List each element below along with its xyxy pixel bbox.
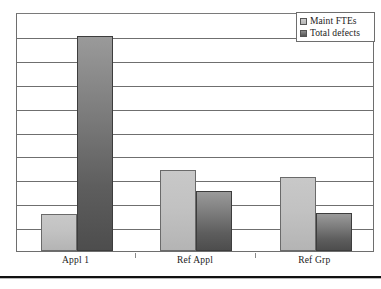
category-label: Ref Appl bbox=[135, 254, 254, 267]
bar[interactable] bbox=[196, 191, 232, 251]
category-tick bbox=[135, 253, 136, 258]
legend-item-maint-ftes[interactable]: Maint FTEs bbox=[300, 15, 371, 27]
legend-label-maint-ftes: Maint FTEs bbox=[310, 16, 357, 27]
bar[interactable] bbox=[280, 177, 316, 251]
bar[interactable] bbox=[160, 170, 196, 251]
category-label: Ref Grp bbox=[255, 254, 374, 267]
bar-group bbox=[136, 14, 255, 251]
legend-swatch-total-defects-icon bbox=[300, 30, 307, 37]
bar[interactable] bbox=[41, 214, 77, 251]
plot-area bbox=[16, 13, 374, 252]
bar[interactable] bbox=[316, 213, 352, 251]
bar-group bbox=[17, 14, 136, 251]
legend-label-total-defects: Total defects bbox=[310, 28, 360, 39]
category-tick bbox=[255, 253, 256, 258]
category-label: Appl 1 bbox=[16, 254, 135, 267]
bar[interactable] bbox=[77, 36, 113, 251]
chart-legend: Maint FTEs Total defects bbox=[296, 12, 375, 42]
bars-layer bbox=[17, 14, 373, 251]
legend-item-total-defects[interactable]: Total defects bbox=[300, 27, 371, 39]
bottom-rule-shadow bbox=[0, 278, 381, 279]
category-axis: Appl 1Ref ApplRef Grp bbox=[16, 253, 374, 271]
chart-figure: Maint FTEs Total defects Appl 1Ref ApplR… bbox=[0, 0, 381, 289]
bar-group bbox=[256, 14, 375, 251]
legend-swatch-maint-ftes-icon bbox=[300, 18, 307, 25]
